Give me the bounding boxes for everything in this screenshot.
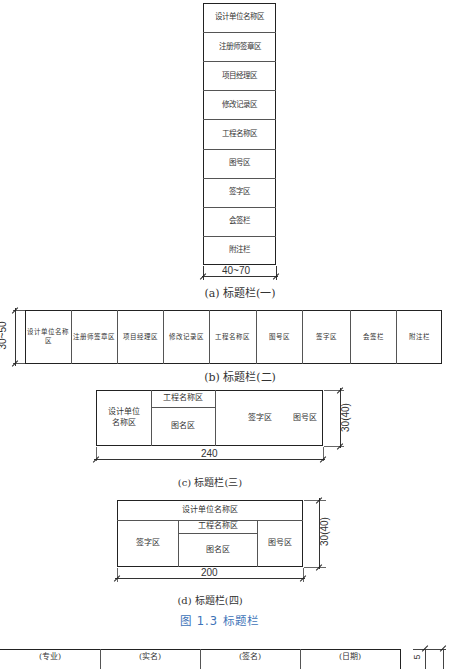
divider xyxy=(203,149,276,150)
panel-b-cell: 会签栏 xyxy=(350,310,396,364)
divider xyxy=(203,236,276,237)
dim-ext xyxy=(304,500,326,501)
dim-line-c-h xyxy=(94,459,325,460)
drawing-no-cell: 图号区 xyxy=(285,390,325,446)
panel-a-cell: 会签栏 xyxy=(203,207,276,236)
panel-d-caption: (d) 标题栏(四) xyxy=(135,592,285,607)
panel-b-cell: 修改记录区 xyxy=(163,310,209,364)
height-dim-label: 30(40) xyxy=(319,517,330,546)
header-cell: (日期) xyxy=(300,650,400,664)
drawing-name-cell: 图名区 xyxy=(178,533,257,567)
dim-tick xyxy=(320,456,326,462)
divider xyxy=(350,310,351,364)
panel-a-cell: 附注栏 xyxy=(203,236,276,265)
divider xyxy=(163,310,164,364)
drawing-no-cell: 图号区 xyxy=(257,520,303,567)
panel-c-caption: (c) 标题栏(三) xyxy=(135,474,285,489)
divider xyxy=(209,310,210,364)
divider xyxy=(203,61,276,62)
divider xyxy=(203,32,276,33)
panel-a-cell: 项目经理区 xyxy=(203,61,276,90)
drawing-name-cell: 图名区 xyxy=(151,407,215,446)
panel-b-cell: 图号区 xyxy=(256,310,302,364)
panel-a-cell: 注册师签章区 xyxy=(203,32,276,61)
panel-a-cell: 签字区 xyxy=(203,178,276,207)
panel-a-cell: 修改记录区 xyxy=(203,90,276,119)
divider xyxy=(117,310,118,364)
figure-caption: 图 1.3 标题栏 xyxy=(180,612,259,628)
divider xyxy=(203,178,276,179)
design-unit-cell: 设计单位 名称区 xyxy=(96,390,151,446)
header-cell: (签名) xyxy=(200,650,300,664)
project-name-cell: 工程名称区 xyxy=(178,520,257,533)
divider xyxy=(396,310,397,364)
header-cell: (实名) xyxy=(100,650,200,664)
signature-cell: 签字区 xyxy=(240,390,280,446)
panel-b-caption: (b) 标题栏(二) xyxy=(165,368,315,384)
width-dim-label: 240 xyxy=(201,448,218,459)
header-cell: (专业) xyxy=(0,650,100,664)
dim-line-d-h xyxy=(115,578,305,579)
divider xyxy=(302,310,303,364)
panel-a-caption: (a) 标题栏(一) xyxy=(165,284,315,300)
height-dim-label: 30~50 xyxy=(0,321,8,349)
project-name-cell: 工程名称区 xyxy=(151,390,215,407)
panel-a-cell: 工程名称区 xyxy=(203,119,276,148)
height-dim-label: 5 xyxy=(412,654,422,659)
panel-b-cell: 工程名称区 xyxy=(209,310,256,364)
table-right-border xyxy=(400,649,401,669)
divider xyxy=(71,310,72,364)
panel-b-cell: 项目经理区 xyxy=(117,310,163,364)
panel-b-cell: 注册师签章区 xyxy=(71,310,117,364)
panel-a-cell: 图号区 xyxy=(203,149,276,178)
panel-b-cell: 签字区 xyxy=(302,310,350,364)
dim-ext xyxy=(443,649,444,669)
signature-cell: 签字区 xyxy=(117,520,178,567)
divider xyxy=(215,390,216,446)
dim-line-a xyxy=(202,276,278,277)
width-dim-label: 40~70 xyxy=(222,265,250,276)
design-unit-cell: 设计单位名称区 xyxy=(117,500,303,520)
divider xyxy=(203,90,276,91)
panel-a-cell: 设计单位名称区 xyxy=(203,3,276,32)
divider xyxy=(203,119,276,120)
width-dim-label: 200 xyxy=(201,567,218,578)
divider xyxy=(203,207,276,208)
dim-ext xyxy=(425,649,426,669)
divider xyxy=(256,310,257,364)
dim-line-b xyxy=(15,308,16,366)
height-dim-label: 30(40) xyxy=(340,403,351,432)
dim-ext xyxy=(304,567,326,568)
panel-b-cell: 设计单位名称区 xyxy=(25,310,71,364)
panel-b-cell: 附注栏 xyxy=(396,310,442,364)
